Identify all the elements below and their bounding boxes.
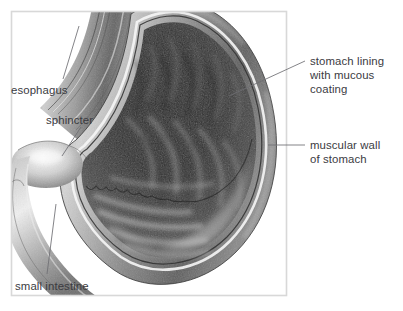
stomach-anatomy-figure: esophagus sphincter small intestine stom… — [0, 0, 403, 311]
label-small-intestine: small intestine — [15, 279, 89, 293]
label-stomach-lining: stomach lining with mucous coating — [310, 54, 384, 97]
label-esophagus: esophagus — [11, 83, 68, 97]
label-sphincter: sphincter — [46, 113, 93, 127]
label-muscular-wall: muscular wall of stomach — [310, 138, 380, 166]
